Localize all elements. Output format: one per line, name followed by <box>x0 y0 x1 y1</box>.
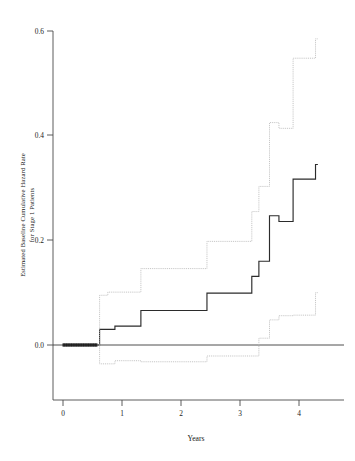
x-axis-title: Years <box>188 434 205 443</box>
y-ticklabel-0.6: 0.6 <box>35 27 45 36</box>
y-axis-title-line2: for Stage 1 Patients <box>28 187 35 242</box>
x-tick-group: 0 1 2 3 4 <box>61 400 301 418</box>
y-ticklabel-0.4: 0.4 <box>35 131 45 140</box>
series-path-1 <box>63 39 318 345</box>
x-ticklabel-2: 2 <box>179 409 183 418</box>
x-ticklabel-3: 3 <box>238 409 242 418</box>
y-axis-title-line1: Estimated Baseline Cumulative Hazard Rat… <box>19 153 26 277</box>
x-ticklabel-0: 0 <box>61 409 65 418</box>
x-ticklabel-4: 4 <box>297 409 301 418</box>
hazard-step-chart: 0.6 0.4 0.2 0.0 0 1 2 3 4 Years Estimate… <box>0 0 355 461</box>
censor-tick-group <box>63 343 97 346</box>
series-path-0 <box>63 164 318 345</box>
series-path-2 <box>63 293 318 364</box>
figure-container: 0.6 0.4 0.2 0.0 0 1 2 3 4 Years Estimate… <box>0 0 355 461</box>
x-ticklabel-1: 1 <box>120 409 124 418</box>
y-tick-group: 0.6 0.4 0.2 0.0 <box>35 27 53 350</box>
y-ticklabel-0.2: 0.2 <box>35 236 45 245</box>
y-ticklabel-0.0: 0.0 <box>35 341 45 350</box>
series-layer <box>63 39 318 364</box>
